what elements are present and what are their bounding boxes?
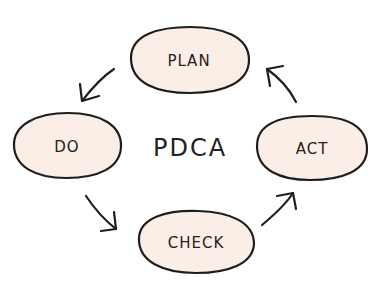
- node-act: ACT: [257, 116, 367, 180]
- node-check-label: CHECK: [168, 234, 225, 252]
- node-plan: PLAN: [131, 27, 249, 93]
- node-act-label: ACT: [296, 140, 329, 158]
- node-do-label: DO: [54, 138, 79, 156]
- center-title: PDCA: [153, 134, 227, 162]
- arrow-plan-to-do: [80, 69, 114, 101]
- node-do: DO: [14, 113, 121, 178]
- arrow-check-to-act: [262, 193, 296, 225]
- node-check: CHECK: [139, 211, 254, 273]
- arrow-act-to-plan: [267, 66, 296, 102]
- node-plan-label: PLAN: [167, 52, 210, 70]
- pdca-diagram: PLAN DO ACT CHECK PDCA: [0, 0, 375, 295]
- arrow-do-to-check: [86, 196, 116, 231]
